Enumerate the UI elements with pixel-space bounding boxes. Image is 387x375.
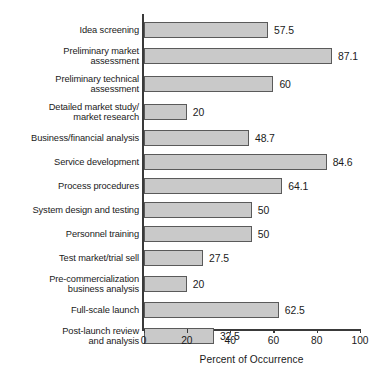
bar [144, 202, 252, 218]
bar-value-label: 20 [193, 279, 204, 290]
category-label: Full-scale launch [1, 305, 139, 315]
bar-row: System design and testing50 [0, 198, 387, 222]
bar [144, 48, 332, 64]
bar-container: 84.6 [144, 154, 353, 170]
bar-value-label: 87.1 [338, 51, 358, 62]
bar-container: 27.5 [144, 250, 229, 266]
bar-container: 64.1 [144, 178, 309, 194]
bar [144, 276, 187, 292]
bar-value-label: 48.7 [255, 133, 275, 144]
bar-row: Service development84.6 [0, 150, 387, 174]
category-label: Business/financial analysis [1, 133, 139, 143]
bar-container: 48.7 [144, 130, 275, 146]
category-label: Pre-commercialization business analysis [1, 274, 139, 295]
bar [144, 130, 249, 146]
bar-value-label: 50 [258, 205, 269, 216]
bar-row: Business/financial analysis48.7 [0, 126, 387, 150]
tick-mark [144, 329, 145, 333]
category-label: Process procedures [1, 181, 139, 191]
bar-value-label: 62.5 [285, 305, 305, 316]
bar [144, 250, 204, 266]
bar-row: Preliminary technical assessment60 [0, 70, 387, 98]
bar-container: 62.5 [144, 302, 305, 318]
plot-area: Idea screening57.5Preliminary market ass… [0, 0, 387, 375]
bar-value-label: 60 [279, 79, 290, 90]
bar-row: Process procedures64.1 [0, 174, 387, 198]
tick-label: 40 [224, 335, 235, 347]
tick-label: 60 [268, 335, 279, 347]
tick-label: 0 [141, 335, 147, 347]
bar-value-label: 57.5 [274, 25, 294, 36]
bar [144, 104, 187, 120]
bar-container: 50 [144, 202, 270, 218]
bar-value-label: 50 [258, 229, 269, 240]
bar-rows: Idea screening57.5Preliminary market ass… [0, 18, 387, 350]
bar-container: 20 [144, 276, 205, 292]
bar [144, 178, 283, 194]
tick-mark [187, 329, 188, 333]
tick-mark [317, 329, 318, 333]
bar-container: 87.1 [144, 48, 358, 64]
category-label: Preliminary technical assessment [1, 74, 139, 95]
bar-row: Detailed market study/ market research20 [0, 98, 387, 126]
bar-row: Test market/trial sell27.5 [0, 246, 387, 270]
category-label: Preliminary market assessment [1, 46, 139, 67]
bar-container: 50 [144, 226, 270, 242]
bar-value-label: 20 [193, 107, 204, 118]
category-label: Service development [1, 157, 139, 167]
tick-mark [360, 329, 361, 333]
category-label: Test market/trial sell [1, 253, 139, 263]
x-axis-title: Percent of Occurrence [142, 354, 361, 366]
bar-container: 20 [144, 104, 205, 120]
bar-row: Idea screening57.5 [0, 18, 387, 42]
bar-row: Preliminary market assessment87.1 [0, 42, 387, 70]
bar [144, 154, 327, 170]
category-label: Personnel training [1, 229, 139, 239]
bar-row: Pre-commercialization business analysis2… [0, 270, 387, 298]
category-label: System design and testing [1, 205, 139, 215]
bar-value-label: 27.5 [209, 253, 229, 264]
bar-value-label: 84.6 [333, 157, 353, 168]
tick-mark [273, 329, 274, 333]
bar-row: Full-scale launch62.5 [0, 298, 387, 322]
bar [144, 22, 268, 38]
bar-value-label: 64.1 [288, 181, 308, 192]
tick-label: 20 [181, 335, 192, 347]
category-label: Idea screening [1, 25, 139, 35]
bar [144, 226, 252, 242]
bar-container: 60 [144, 76, 291, 92]
bar [144, 302, 279, 318]
tick-label: 80 [311, 335, 322, 347]
tick-label: 100 [352, 335, 369, 347]
bar-row: Personnel training50 [0, 222, 387, 246]
bar-container: 57.5 [144, 22, 294, 38]
bar [144, 76, 274, 92]
category-label: Detailed market study/ market research [1, 102, 139, 123]
bar-chart: Idea screening57.5Preliminary market ass… [0, 0, 387, 375]
tick-mark [230, 329, 231, 333]
